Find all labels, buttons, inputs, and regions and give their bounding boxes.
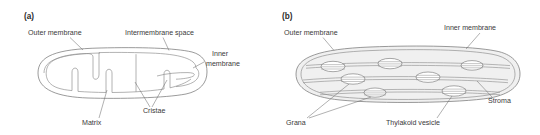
granum-stack: [321, 61, 345, 71]
mitochondrion-cristae-path: [46, 52, 196, 92]
label-stroma: Stroma: [488, 97, 511, 105]
panel-a-label: (a): [24, 12, 34, 21]
label-outer-membrane-a: Outer membrane: [28, 29, 82, 37]
label-intermembrane-space: Intermembrane space: [125, 29, 194, 37]
label-inner-membrane-a-line2: membrane: [206, 60, 240, 68]
leader-inner-membrane-b: [466, 33, 480, 49]
leader-outer-membrane-a: [70, 38, 83, 51]
granum-stack: [416, 72, 440, 82]
mitochondrion-crista-right: [157, 73, 194, 80]
granum-stack: [378, 58, 402, 68]
label-inner-membrane-b: Inner membrane: [444, 24, 496, 32]
granum-stack: [461, 61, 483, 71]
figure-root: (a) Outer membrane Intermembrane space I…: [0, 0, 540, 135]
leader-inner-membrane-a: [193, 62, 204, 68]
granum-stack: [341, 74, 365, 84]
panel-b-group: (b): [282, 12, 520, 127]
label-cristae: Cristae: [143, 107, 166, 115]
label-outer-membrane-b: Outer membrane: [284, 29, 338, 37]
mitochondrion-outer-membrane: [38, 48, 207, 99]
label-thylakoid-vesicle: Thylakoid vesicle: [386, 119, 440, 127]
label-matrix: Matrix: [82, 119, 102, 127]
leader-outer-membrane-b: [323, 38, 334, 51]
leader-cristae-2: [152, 80, 167, 107]
leader-matrix: [99, 90, 107, 118]
panel-a-group: (a) Outer membrane Intermembrane space I…: [24, 12, 240, 127]
label-grana: Grana: [286, 119, 306, 127]
panel-b-label: (b): [282, 12, 293, 21]
granum-stack: [442, 86, 466, 96]
organelle-diagram: (a) Outer membrane Intermembrane space I…: [0, 0, 540, 135]
granum-stack: [364, 88, 386, 97]
leader-cristae-1: [135, 82, 150, 107]
mitochondrion-inner-membrane-hook: [176, 68, 199, 87]
label-inner-membrane-a-line1: Inner: [212, 50, 229, 58]
